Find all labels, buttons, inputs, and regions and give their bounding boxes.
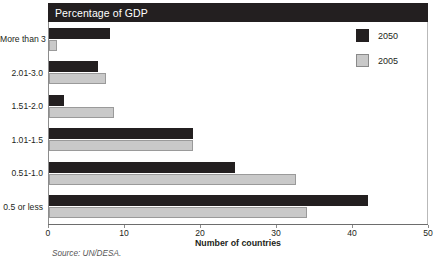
x-tick-label: 50 (423, 228, 433, 238)
bar-2050 (49, 28, 110, 39)
x-axis-ticks: 01020304050 (0, 225, 440, 239)
bar-2050 (49, 61, 98, 72)
bar-2050 (49, 162, 235, 173)
category-label: 0.5 or less (0, 203, 43, 212)
bar-stack (49, 60, 429, 86)
bar-stack (49, 27, 429, 53)
bar-group: 1.01-1.5 (0, 124, 440, 158)
bar-stack (49, 161, 429, 187)
bar-2050 (49, 195, 368, 206)
bar-2005 (49, 73, 106, 84)
category-label: More than 3 (0, 35, 43, 44)
bar-2005 (49, 174, 296, 185)
bar-2005 (49, 207, 307, 218)
bar-2050 (49, 128, 193, 139)
x-tick-label: 40 (347, 228, 357, 238)
category-label: 2.01-3.0 (0, 69, 43, 78)
chart-title: Percentage of GDP (55, 7, 148, 19)
bar-group: 0.51-1.0 (0, 157, 440, 191)
x-tick-label: 0 (46, 228, 51, 238)
bar-group: 1.51-2.0 (0, 90, 440, 124)
x-axis-title: Number of countries (48, 238, 428, 248)
source-note: Source: UN/DESA. (52, 249, 121, 258)
bar-group: More than 3 (0, 23, 440, 57)
bar-rows: More than 32.01-3.01.51-2.01.01-1.50.51-… (0, 23, 440, 224)
bar-2005 (49, 107, 114, 118)
x-tick-label: 20 (195, 228, 205, 238)
category-label: 1.51-2.0 (0, 102, 43, 111)
bar-2005 (49, 140, 193, 151)
chart-figure: Percentage of GDP 2050 2005 More than 32… (0, 0, 440, 263)
x-tick-label: 10 (119, 228, 129, 238)
category-label: 1.01-1.5 (0, 136, 43, 145)
chart-title-band: Percentage of GDP (48, 3, 428, 22)
bar-2005 (49, 40, 57, 51)
bar-2050 (49, 95, 64, 106)
bar-stack (49, 127, 429, 153)
bar-stack (49, 94, 429, 120)
bar-stack (49, 194, 429, 220)
x-tick-label: 30 (271, 228, 281, 238)
bar-group: 2.01-3.0 (0, 57, 440, 91)
bar-group: 0.5 or less (0, 191, 440, 225)
category-label: 0.51-1.0 (0, 169, 43, 178)
